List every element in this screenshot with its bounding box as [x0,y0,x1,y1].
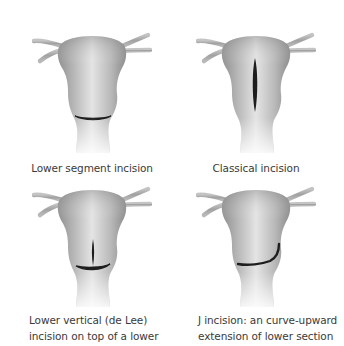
caption-j-incision: J incision: an curve-upward extension of… [198,312,344,344]
caption-de-lee-incision: Lower vertical (de Lee) incision on top … [29,312,179,344]
uterus-illustration [196,182,316,307]
uterus-illustration [196,28,316,153]
panel-de-lee-incision [32,182,152,307]
caption-line: incision on top of a lower [29,328,179,344]
caption-line: Lower vertical (de Lee) [29,312,179,328]
caption-lower-segment-incision: Lower segment incision [22,160,162,176]
panel-classical-incision [196,28,316,178]
uterus-illustration [32,182,152,307]
caption-line: Lower segment incision [22,160,162,176]
panel-lower-segment-incision [32,28,152,178]
uterus-illustration [32,28,152,153]
caption-line: extension of lower section [198,328,344,344]
caption-line: Classical incision [196,160,316,176]
caesarean-incision-types-figure: Lower segment incision Classical incisio… [0,0,344,346]
caption-classical-incision: Classical incision [196,160,316,176]
caption-line: J incision: an curve-upward [198,312,344,328]
panel-j-incision [196,182,316,307]
